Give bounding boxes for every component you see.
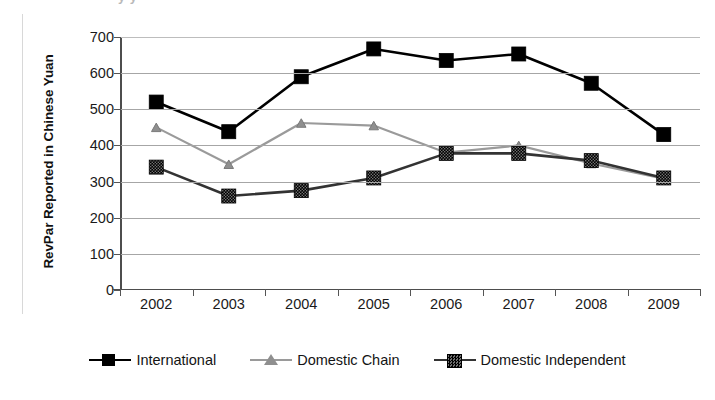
legend-marker-icon bbox=[447, 354, 462, 368]
gridline bbox=[120, 254, 700, 255]
y-axis-tickmark bbox=[114, 73, 121, 74]
gridline bbox=[120, 73, 700, 74]
data-point-marker bbox=[367, 42, 381, 56]
legend-swatch-icon bbox=[89, 352, 131, 368]
gridline bbox=[120, 145, 700, 146]
legend-swatch-icon bbox=[250, 352, 292, 368]
y-axis-tick-label: 500 bbox=[62, 101, 114, 117]
legend-item-international[interactable]: International bbox=[89, 352, 216, 368]
y-axis-tick-labels: 0100200300400500600700 bbox=[62, 0, 114, 400]
y-axis-tick-label: 700 bbox=[62, 29, 114, 45]
y-axis-tickmark bbox=[114, 37, 121, 38]
y-axis-tick-label: 400 bbox=[62, 137, 114, 153]
legend-label: International bbox=[136, 352, 216, 368]
gridline bbox=[120, 218, 700, 219]
x-axis-tick-label: 2007 bbox=[484, 296, 554, 312]
legend-item-domestic-independent[interactable]: Domestic Independent bbox=[434, 352, 626, 368]
x-axis-tick-label: 2009 bbox=[629, 296, 699, 312]
data-point-marker bbox=[657, 128, 671, 142]
y-axis-tickmark bbox=[114, 145, 121, 146]
y-axis-tickmark bbox=[114, 109, 121, 110]
data-point-marker bbox=[512, 146, 526, 160]
data-point-marker bbox=[222, 125, 236, 139]
x-axis-tick-label: 2008 bbox=[556, 296, 626, 312]
series-line bbox=[156, 49, 664, 135]
legend-label: Domestic Chain bbox=[297, 352, 399, 368]
x-axis-tickmark bbox=[410, 289, 411, 296]
legend-label: Domestic Independent bbox=[481, 352, 626, 368]
y-axis-tick-label: 600 bbox=[62, 65, 114, 81]
legend-item-domestic-chain[interactable]: Domestic Chain bbox=[250, 352, 399, 368]
x-axis-tick-label: 2006 bbox=[411, 296, 481, 312]
x-axis-tick-label: 2002 bbox=[121, 296, 191, 312]
plot-area bbox=[120, 37, 700, 290]
data-point-marker bbox=[367, 171, 381, 185]
x-axis-tickmark bbox=[338, 289, 339, 296]
y-axis-tick-label: 300 bbox=[62, 174, 114, 190]
data-point-marker bbox=[149, 95, 163, 109]
y-axis-tick-label: 200 bbox=[62, 210, 114, 226]
y-axis-title: RevPar Reported in Chinese Yuan bbox=[41, 17, 56, 307]
y-axis-title-rule bbox=[22, 14, 23, 314]
x-axis-tickmark bbox=[120, 289, 121, 296]
x-axis-tickmark bbox=[700, 289, 701, 296]
y-axis-tick-label: 0 bbox=[62, 282, 114, 298]
gridline bbox=[120, 182, 700, 183]
revpar-line-chart: y y RevPar Reported in Chinese Yuan 0100… bbox=[0, 0, 715, 400]
x-axis-tickmark bbox=[265, 289, 266, 296]
y-axis-tick-label: 100 bbox=[62, 246, 114, 262]
x-axis-tick-label: 2004 bbox=[266, 296, 336, 312]
data-point-marker bbox=[439, 53, 453, 67]
data-point-marker bbox=[294, 184, 308, 198]
chart-legend: InternationalDomestic ChainDomestic Inde… bbox=[0, 352, 715, 368]
data-point-marker bbox=[152, 123, 162, 132]
data-point-marker bbox=[584, 154, 598, 168]
gridline bbox=[120, 37, 700, 38]
legend-marker-icon bbox=[102, 354, 115, 366]
y-axis-tickmark bbox=[114, 254, 121, 255]
gridline bbox=[120, 109, 700, 110]
x-axis-tickmark bbox=[483, 289, 484, 296]
data-point-marker bbox=[512, 47, 526, 61]
x-axis-tick-label: 2003 bbox=[194, 296, 264, 312]
y-axis-tickmark bbox=[114, 182, 121, 183]
y-axis-tickmark bbox=[114, 218, 121, 219]
legend-marker-icon bbox=[264, 354, 278, 365]
x-axis-tickmark bbox=[193, 289, 194, 296]
x-axis-tick-labels: 20022003200420052006200720082009 bbox=[120, 296, 700, 320]
x-axis-tick-label: 2005 bbox=[339, 296, 409, 312]
legend-swatch-icon bbox=[434, 352, 476, 368]
data-point-marker bbox=[222, 189, 236, 203]
data-point-marker bbox=[294, 70, 308, 84]
data-point-marker bbox=[657, 171, 671, 185]
data-point-marker bbox=[149, 160, 163, 174]
x-axis-tickmark bbox=[555, 289, 556, 296]
data-point-marker bbox=[584, 76, 598, 90]
data-point-marker bbox=[439, 146, 453, 160]
x-axis-tickmark bbox=[628, 289, 629, 296]
series-layer bbox=[120, 37, 700, 290]
